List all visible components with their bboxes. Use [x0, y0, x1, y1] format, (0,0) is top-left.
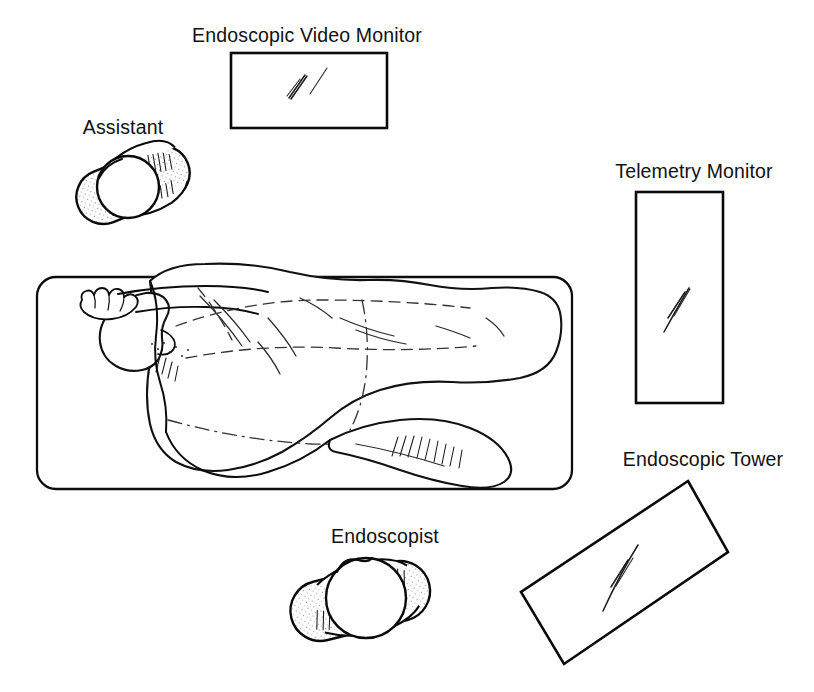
- endoscopic-video-monitor-screen: [231, 53, 387, 128]
- telemetry-monitor-label: Telemetry Monitor: [615, 160, 773, 182]
- endoscopic-video-monitor: Endoscopic Video Monitor: [192, 24, 422, 128]
- assistant-figure: Assistant: [65, 116, 200, 237]
- endoscopist-figure: Endoscopist: [282, 525, 439, 652]
- assistant-head: [97, 156, 159, 218]
- assistant-label: Assistant: [83, 116, 164, 138]
- endoscopic-video-monitor-label: Endoscopic Video Monitor: [192, 24, 422, 46]
- endoscopist-label: Endoscopist: [331, 525, 439, 547]
- diagram-canvas: Endoscopic Video Monitor Telemetry Monit…: [0, 0, 814, 692]
- endoscopy-room-layout-illustration: Endoscopic Video Monitor Telemetry Monit…: [0, 0, 814, 692]
- endoscopic-tower-label: Endoscopic Tower: [623, 448, 784, 470]
- telemetry-monitor-screen: [636, 192, 723, 403]
- telemetry-monitor: Telemetry Monitor: [615, 160, 773, 403]
